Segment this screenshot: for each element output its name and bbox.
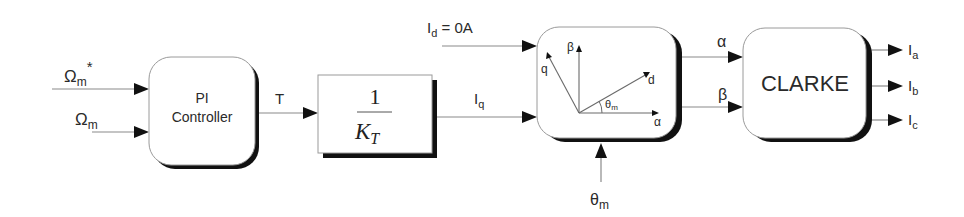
pi-controller-block: PI Controller <box>149 57 259 169</box>
id-label: Id = 0A <box>427 19 473 39</box>
inverse-park-block: β α d q θm <box>537 27 682 142</box>
beta-signal-label: β <box>718 86 727 103</box>
d-vector-label: d <box>648 73 655 87</box>
torque-label: T <box>275 90 284 107</box>
clarke-block: CLARKE <box>743 28 872 142</box>
ic-label: Ic <box>908 111 918 131</box>
alpha-signal-label: α <box>717 33 726 50</box>
torque-constant-block: 1 KT <box>318 75 437 158</box>
clarke-label: CLARKE <box>761 71 849 96</box>
ib-label: Ib <box>908 77 918 97</box>
speed-reference-label: Ωm* <box>64 58 93 89</box>
arrow-head-icon <box>303 107 318 119</box>
motor-control-block-diagram: Ωm* Ωm PI Controller T 1 KT Iq Id = 0A <box>0 0 964 217</box>
pi-controller-label-line2: Controller <box>172 109 233 125</box>
arrow-head-icon <box>728 51 743 63</box>
theta-input-signal: θm <box>590 143 609 212</box>
arrow-head-icon <box>134 83 149 95</box>
q-vector-label: q <box>541 62 548 76</box>
ib-output: Ib <box>872 77 918 97</box>
arrow-head-icon <box>728 101 743 113</box>
speed-measured-label: Ωm <box>75 110 98 132</box>
speed-reference-signal: Ωm* <box>52 58 149 95</box>
ic-output: Ic <box>872 111 918 131</box>
arrow-head-icon <box>522 40 537 52</box>
arrow-head-icon <box>888 80 903 92</box>
beta-signal: β <box>682 86 743 113</box>
torque-signal: T <box>259 90 318 119</box>
arrow-head-icon <box>888 114 903 126</box>
iq-signal: Iq <box>437 90 537 123</box>
arrow-head-icon <box>522 111 537 123</box>
gain-numerator: 1 <box>370 84 381 109</box>
pi-controller-label-line1: PI <box>195 90 208 106</box>
ia-output: Ia <box>872 41 919 61</box>
arrow-head-icon <box>134 126 149 138</box>
alpha-axis-label: α <box>654 115 661 129</box>
beta-axis-label: β <box>567 40 574 54</box>
alpha-signal: α <box>682 33 743 63</box>
theta-input-label: θm <box>590 191 609 212</box>
id-signal: Id = 0A <box>427 19 537 52</box>
arrow-head-icon <box>595 143 607 158</box>
iq-label: Iq <box>474 90 484 110</box>
ia-label: Ia <box>908 41 919 61</box>
speed-measured-signal: Ωm <box>75 110 149 138</box>
arrow-head-icon <box>888 44 903 56</box>
